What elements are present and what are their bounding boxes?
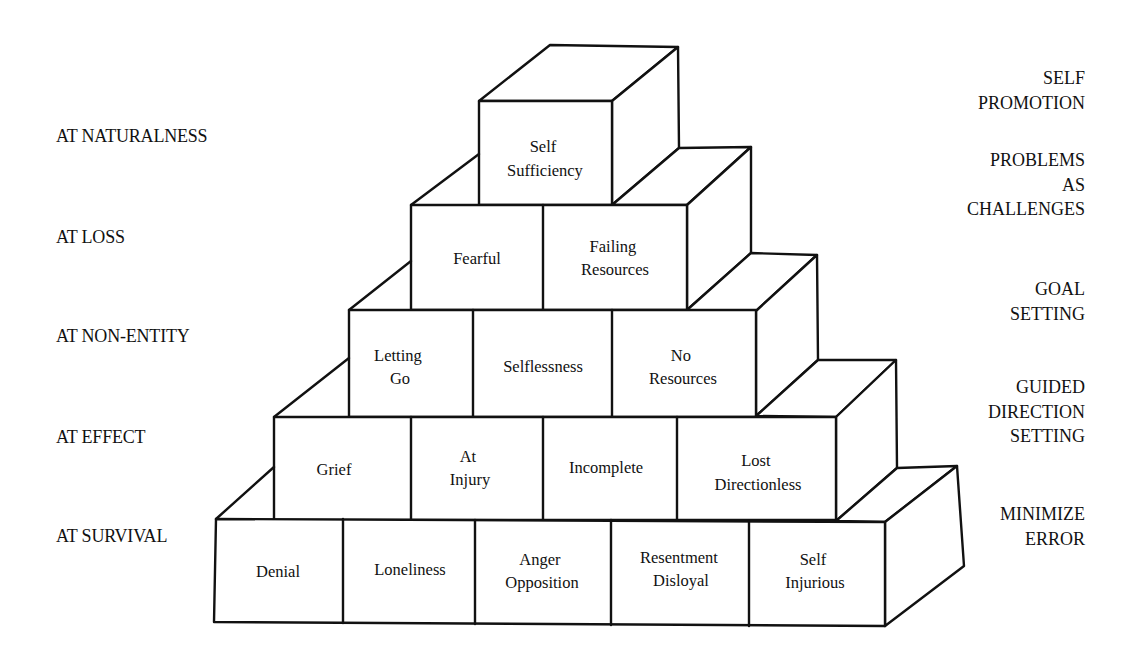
- cell-self-sufficiency-line-1: Self: [530, 137, 557, 156]
- left-label-at-loss: AT LOSS: [56, 228, 125, 246]
- right-label-self-promotion: SELF PROMOTION: [978, 66, 1085, 115]
- cell-grief: Grief: [317, 460, 352, 479]
- right-label-guided-direction-setting: GUIDED DIRECTION SETTING: [988, 375, 1085, 449]
- right-label-goal-setting: GOAL SETTING: [1010, 277, 1085, 326]
- right-label-line: PROMOTION: [978, 91, 1085, 116]
- left-label-at-survival: AT SURVIVAL: [56, 527, 167, 545]
- right-label-line: SETTING: [1010, 302, 1085, 327]
- right-label-line: CHALLENGES: [967, 197, 1085, 222]
- row-3-left-top-edge: [349, 261, 411, 310]
- cell-self-injurious-line-2: Injurious: [785, 573, 845, 592]
- cell-no-resources-line-1: No: [671, 346, 691, 365]
- svg-text:Denial: Denial: [256, 562, 300, 581]
- cell-letting-go-line-1: Letting: [374, 346, 422, 365]
- cell-anger-opposition-line-2: Opposition: [505, 573, 578, 592]
- cell-fearful: Fearful: [453, 249, 501, 268]
- row-4-left-top-edge: [274, 358, 349, 417]
- cell-no-resources-line-2: Resources: [649, 369, 717, 388]
- left-label-at-effect: AT EFFECT: [56, 428, 145, 446]
- cell-self-sufficiency-line-2: Sufficiency: [507, 161, 584, 180]
- right-label-line: MINIMIZE: [1000, 502, 1085, 527]
- cell-failing-resources-line-2: Resources: [581, 260, 649, 279]
- cell-at-injury-line-2: Injury: [450, 470, 491, 489]
- cell-incomplete: Incomplete: [569, 458, 643, 477]
- cell-loneliness: Loneliness: [374, 560, 446, 579]
- cell-resentment-disloyal-line-2: Disloyal: [653, 571, 709, 590]
- svg-text:Grief: Grief: [317, 460, 352, 479]
- right-label-line: GUIDED: [988, 375, 1085, 400]
- cell-at-injury-line-1: At: [460, 447, 477, 466]
- right-label-minimize-error: MINIMIZE ERROR: [1000, 502, 1085, 551]
- row-2-left-top-edge: [411, 154, 479, 205]
- cell-lost-directionless-line-2: Directionless: [714, 475, 801, 494]
- svg-text:Selflessness: Selflessness: [503, 357, 583, 376]
- left-label-at-non-entity: AT NON-ENTITY: [56, 327, 190, 345]
- row-5-left-top-edge: [216, 467, 274, 519]
- right-label-line: SELF: [978, 66, 1085, 91]
- right-label-line: GOAL: [1010, 277, 1085, 302]
- cell-resentment-disloyal-line-1: Resentment: [640, 548, 718, 567]
- cell-lost-directionless-line-1: Lost: [741, 451, 771, 470]
- right-label-problems-as-challenges: PROBLEMS AS CHALLENGES: [967, 148, 1085, 222]
- right-label-line: SETTING: [988, 424, 1085, 449]
- cell-self-injurious-line-1: Self: [800, 550, 827, 569]
- right-label-line: PROBLEMS: [967, 148, 1085, 173]
- cell-letting-go-line-2: Go: [390, 369, 410, 388]
- right-label-line: AS: [967, 173, 1085, 198]
- right-label-line: DIRECTION: [988, 400, 1085, 425]
- cell-failing-resources-line-1: Failing: [590, 237, 637, 256]
- cell-anger-opposition-line-1: Anger: [519, 550, 561, 569]
- left-label-at-naturalness: AT NATURALNESS: [56, 127, 207, 145]
- cell-denial: Denial: [256, 562, 300, 581]
- right-label-line: ERROR: [1000, 527, 1085, 552]
- svg-text:Incomplete: Incomplete: [569, 458, 643, 477]
- cell-selflessness: Selflessness: [503, 357, 583, 376]
- svg-text:Loneliness: Loneliness: [374, 560, 446, 579]
- svg-text:Fearful: Fearful: [453, 249, 501, 268]
